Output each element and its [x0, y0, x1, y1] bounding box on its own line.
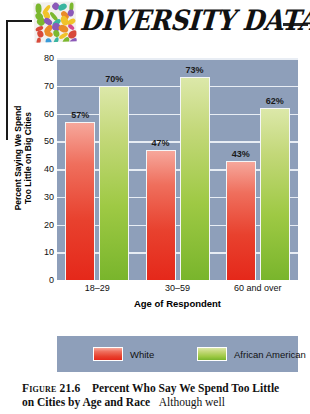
y-axis-tick: 0 — [30, 275, 54, 285]
y-axis-tick-labels: 01020304050607080 — [30, 58, 54, 280]
y-axis-tick: 40 — [30, 164, 54, 174]
x-axis-tick: 18–29 — [85, 283, 110, 293]
x-axis-tick-labels: 18–2930–5960 and over — [57, 283, 298, 297]
figure-caption: Figure 21.6 Percent Who Say We Spend Too… — [22, 381, 292, 409]
x-axis-tick: 60 and over — [234, 283, 282, 293]
bar-value-label: 47% — [151, 138, 169, 148]
y-axis-tick: 20 — [30, 220, 54, 230]
legend-swatch — [197, 347, 227, 361]
y-axis-tick: 30 — [30, 192, 54, 202]
bar-value-label: 73% — [185, 65, 203, 75]
gridline — [57, 86, 298, 88]
y-axis-tick: 10 — [30, 247, 54, 257]
chart-header: DIVERSITY DATA — [0, 0, 310, 52]
bar — [65, 122, 95, 280]
logo-tile — [45, 37, 53, 42]
legend-item: White — [93, 346, 154, 362]
logo-tile — [36, 37, 42, 43]
legend-label: African American — [234, 349, 306, 360]
bar-value-label: 70% — [105, 74, 123, 84]
figure-caption-description: Although well — [159, 396, 225, 408]
figure-caption-number: Figure 21.6 — [22, 382, 80, 394]
plot-area: 57%70%47%73%43%62% — [57, 58, 298, 280]
y-axis-tick: 70 — [30, 81, 54, 91]
bar-value-label: 43% — [232, 149, 250, 159]
bar-value-label: 57% — [71, 110, 89, 120]
y-axis-title-line1: Percent Saying We Spend — [13, 68, 23, 248]
gridline — [57, 58, 298, 60]
page-title: DIVERSITY DATA — [81, 4, 284, 36]
bar — [260, 108, 290, 280]
bar — [180, 77, 210, 280]
header-bracket-horizontal — [6, 20, 32, 22]
bar — [146, 150, 176, 280]
chart-plot-wrapper: Percent Saying We Spend Too Little on Bi… — [0, 52, 310, 314]
mosaic-tiles-logo-icon — [33, 1, 76, 42]
logo-tile — [44, 30, 53, 37]
y-axis-tick: 50 — [30, 136, 54, 146]
legend-label: White — [130, 349, 154, 360]
bar — [226, 161, 256, 280]
bar — [99, 86, 129, 280]
x-axis-title: Age of Respondent — [57, 298, 298, 309]
legend-swatch — [93, 347, 123, 361]
legend-item: African American — [197, 346, 306, 362]
y-axis-tick: 60 — [30, 109, 54, 119]
chart-legend: WhiteAfrican American — [57, 336, 298, 372]
x-axis-tick: 30–59 — [165, 283, 190, 293]
bar-value-label: 62% — [266, 96, 284, 106]
y-axis-tick: 80 — [30, 53, 54, 63]
